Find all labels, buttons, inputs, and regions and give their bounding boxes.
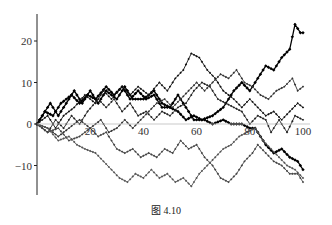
y-tick-label: 0 — [27, 118, 33, 130]
data-point-diamond-icon — [41, 125, 43, 127]
y-tick-label: 20 — [21, 35, 33, 47]
series-walk-3 — [36, 52, 304, 129]
x-tick-label: 40 — [138, 125, 150, 137]
data-point-diamond-icon — [89, 150, 91, 152]
x-tick-label: 20 — [85, 125, 97, 137]
figure-caption: 图 4.10 — [0, 202, 332, 217]
x-tick-label: 60 — [191, 125, 203, 137]
random-walk-chart: −1001020 20406080100 — [0, 0, 332, 200]
series-walk-2 — [35, 23, 304, 126]
data-point-diamond-icon — [86, 149, 88, 151]
data-point-diamond-icon — [62, 137, 64, 139]
x-tick-label: 80 — [244, 125, 256, 137]
data-point-diamond-icon — [60, 138, 62, 140]
data-point-diamond-icon — [301, 31, 304, 34]
y-tick-label: 10 — [21, 77, 33, 89]
data-point-diamond-icon — [92, 151, 94, 153]
series-walk-7 — [36, 123, 304, 188]
data-point-diamond-icon — [73, 137, 75, 139]
data-point-diamond-icon — [76, 136, 78, 138]
data-point-diamond-icon — [291, 35, 294, 38]
series-walk-5 — [36, 69, 304, 138]
series-layer — [35, 23, 304, 188]
data-point-diamond-icon — [291, 173, 293, 175]
data-point-diamond-icon — [44, 126, 46, 128]
y-axis-ticks: −1001020 — [15, 35, 37, 172]
y-tick-label: −10 — [15, 160, 33, 172]
series-walk-6 — [36, 123, 304, 184]
data-point-diamond-icon — [294, 173, 296, 175]
x-tick-label: 100 — [295, 125, 312, 137]
